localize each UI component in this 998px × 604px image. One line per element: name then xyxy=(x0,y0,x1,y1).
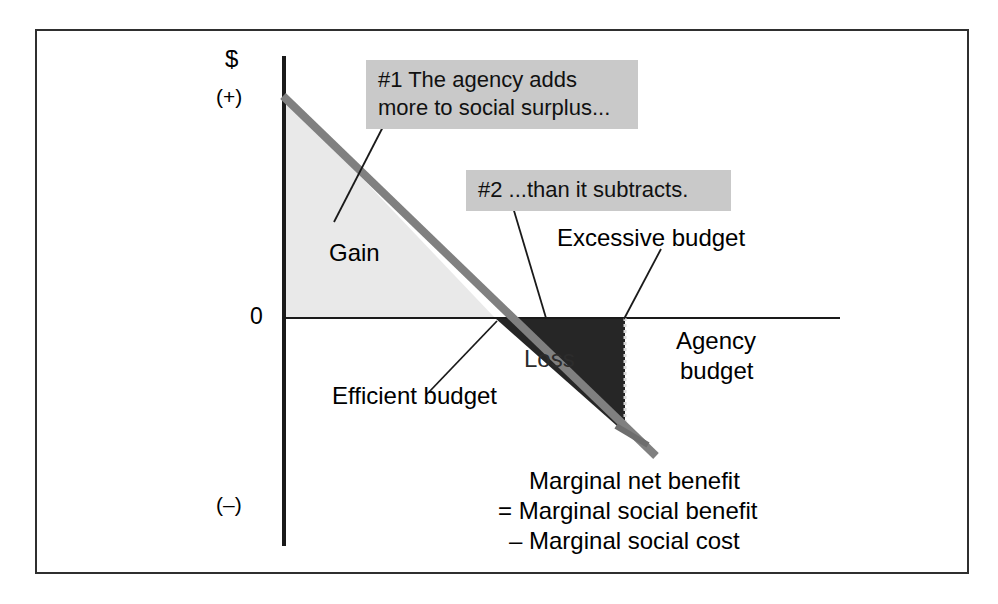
curve-formula-line2: = Marginal social benefit xyxy=(498,497,757,525)
callout-2-line1: #2 ...than it subtracts. xyxy=(478,176,721,204)
y-axis-unit-label: $ xyxy=(225,45,238,73)
loss-region xyxy=(495,318,625,433)
x-axis-title-line2: budget xyxy=(680,357,753,385)
callout-1-line2: more to social surplus... xyxy=(378,94,628,122)
x-axis-title-line1: Agency xyxy=(676,327,756,355)
excessive-budget-leader-line xyxy=(624,249,661,319)
y-axis-positive-label: (+) xyxy=(216,85,242,110)
curve-formula-line3: – Marginal social cost xyxy=(509,527,740,555)
y-axis-negative-label: (–) xyxy=(216,493,242,518)
callout-1: #1 The agency adds more to social surplu… xyxy=(366,60,638,129)
figure-root: $ (+) 0 (–) Gain Loss Efficient budget E… xyxy=(0,0,998,604)
callout-2: #2 ...than it subtracts. xyxy=(466,170,731,211)
callout-1-line1: #1 The agency adds xyxy=(378,66,628,94)
efficient-budget-label: Efficient budget xyxy=(332,382,497,410)
curve-formula-line1: Marginal net benefit xyxy=(529,467,740,495)
loss-region-label: Loss xyxy=(524,345,575,373)
callout-2-leader-line xyxy=(512,204,546,318)
excessive-budget-label: Excessive budget xyxy=(557,224,745,252)
gain-region-label: Gain xyxy=(329,239,380,267)
y-axis-zero-label: 0 xyxy=(250,303,263,330)
